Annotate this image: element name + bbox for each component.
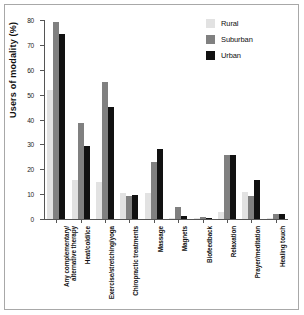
legend-swatch (206, 19, 215, 28)
bar-urban (206, 218, 212, 219)
x-axis-tick (227, 219, 228, 223)
y-axis-tick-label: 50 (27, 91, 34, 98)
y-axis-tick: 50 (40, 95, 44, 96)
x-axis-tick (276, 219, 277, 223)
y-axis-tick-label: 70 (27, 41, 34, 48)
bar-group (169, 20, 187, 219)
bar-group (145, 20, 163, 219)
x-axis-tick (81, 219, 82, 223)
x-axis-category-label: Any complementary/alternative therapy (63, 226, 78, 287)
x-axis-category-label: Biofeedback (206, 226, 213, 263)
x-axis-category-label: Healing touch (279, 226, 286, 267)
chart-legend: RuralSuburbanUrban (206, 19, 253, 67)
bar-group (120, 20, 138, 219)
bar-urban (181, 216, 187, 219)
x-axis-category-label: Prayer/meditation (254, 226, 261, 278)
x-axis-category-label: Relaxation (230, 226, 237, 257)
y-axis-line (44, 20, 45, 219)
y-axis-tick-label: 60 (27, 66, 34, 73)
y-axis-tick: 10 (40, 194, 44, 195)
bar-urban (254, 180, 260, 219)
x-axis-category-label: Chiropractic treatments (132, 226, 139, 296)
legend-item: Suburban (206, 35, 253, 44)
legend-swatch (206, 51, 215, 60)
x-axis-tick (56, 219, 57, 223)
legend-label: Suburban (221, 35, 253, 44)
x-axis-tick (203, 219, 204, 223)
legend-label: Rural (221, 19, 238, 28)
bar-urban (108, 107, 114, 219)
bar-urban (84, 146, 90, 219)
bar-group (47, 20, 65, 219)
y-axis-title: Users of modality (%) (8, 22, 18, 118)
y-axis-tick: 40 (40, 120, 44, 121)
bar-urban (59, 34, 65, 219)
y-axis-tick: 80 (40, 20, 44, 21)
x-axis-tick (105, 219, 106, 223)
bar-group (96, 20, 114, 219)
y-axis-tick: 30 (40, 144, 44, 145)
legend-item: Rural (206, 19, 253, 28)
y-axis-tick-label: 10 (27, 191, 34, 198)
x-axis-category-label: Exercise/stretching/yoga (108, 226, 115, 299)
y-axis-tick: 70 (40, 45, 44, 46)
y-axis-tick: 20 (40, 169, 44, 170)
bar-urban (157, 149, 163, 219)
legend-label: Urban (221, 51, 241, 60)
y-axis-tick-label: 40 (27, 116, 34, 123)
y-axis-tick-label: 30 (27, 141, 34, 148)
bar-urban (279, 214, 285, 219)
legend-item: Urban (206, 51, 253, 60)
legend-swatch (206, 35, 215, 44)
x-axis-category-label: Massage (157, 226, 164, 252)
x-axis-tick (154, 219, 155, 223)
y-axis-tick-label: 0 (31, 216, 34, 223)
x-axis-tick (251, 219, 252, 223)
bar-group (267, 20, 285, 219)
chart-figure: Users of modality (%) 01020304050607080 … (0, 0, 304, 315)
bar-group (72, 20, 90, 219)
y-axis-tick-label: 20 (27, 166, 34, 173)
y-axis-tick: 0 (40, 219, 44, 220)
bar-urban (230, 155, 236, 219)
x-axis-category-label: Magnets (181, 226, 188, 251)
y-axis-tick: 60 (40, 70, 44, 71)
x-axis-category-label: Heat/cold/ice (84, 226, 91, 264)
y-axis-tick-label: 80 (27, 17, 34, 24)
bar-urban (132, 195, 138, 219)
x-axis-tick (129, 219, 130, 223)
x-axis-tick (178, 219, 179, 223)
